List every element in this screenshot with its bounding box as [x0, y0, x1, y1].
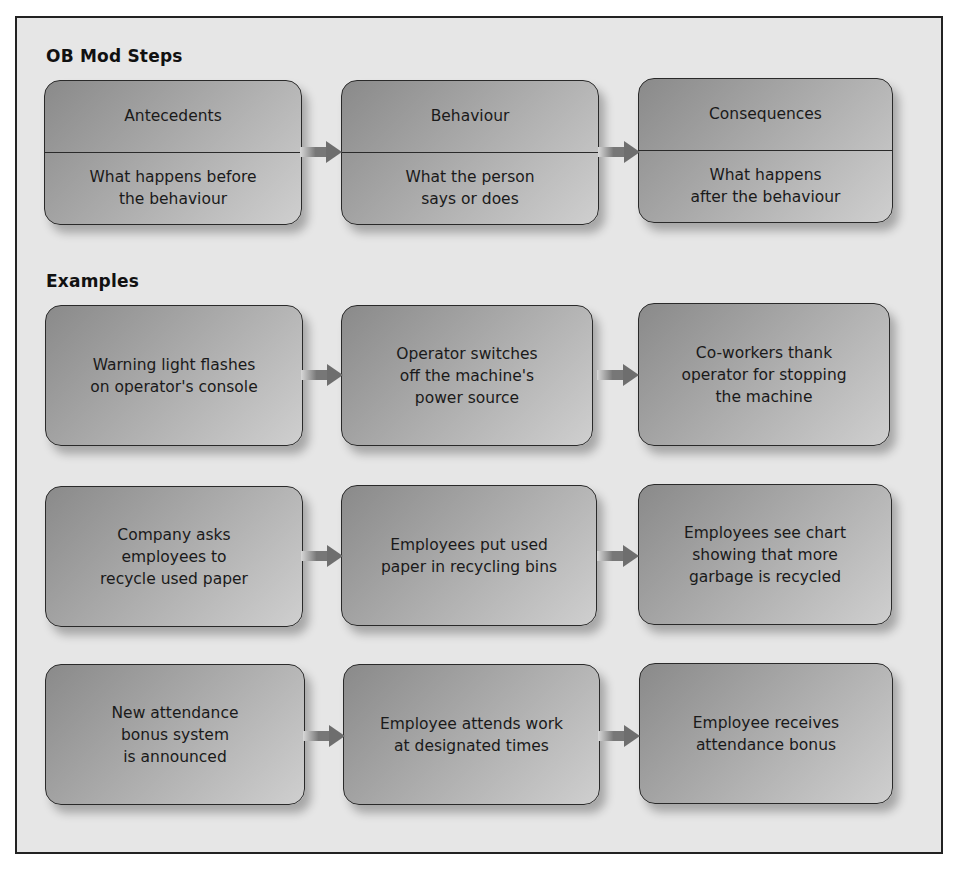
step-heading: Antecedents	[45, 81, 301, 153]
example-text: New attendance bonus system is announced	[46, 665, 304, 804]
arrow-right-icon	[598, 141, 640, 163]
step-heading: Behaviour	[342, 81, 598, 153]
arrow-right-icon	[597, 364, 639, 386]
arrow-right-icon	[300, 141, 342, 163]
step-behaviour: Behaviour What the person says or does	[341, 80, 599, 225]
example-text: Operator switches off the machine's powe…	[342, 306, 592, 445]
arrow-right-icon	[301, 364, 343, 386]
step-antecedents: Antecedents What happens before the beha…	[44, 80, 302, 225]
step-heading: Consequences	[639, 79, 892, 151]
step-description: What the person says or does	[342, 153, 598, 225]
example-antecedent: Warning light flashes on operator's cons…	[45, 305, 303, 446]
arrow-right-icon	[598, 725, 640, 747]
example-text: Employee receives attendance bonus	[640, 664, 892, 803]
steps-title: OB Mod Steps	[46, 46, 183, 66]
example-consequence: Co-workers thank operator for stopping t…	[638, 303, 890, 446]
example-antecedent: New attendance bonus system is announced	[45, 664, 305, 805]
example-behaviour: Employee attends work at designated time…	[343, 664, 600, 805]
arrow-right-icon	[303, 725, 345, 747]
arrow-right-icon	[597, 545, 639, 567]
example-behaviour: Operator switches off the machine's powe…	[341, 305, 593, 446]
example-text: Company asks employees to recycle used p…	[46, 487, 302, 626]
step-description: What happens after the behaviour	[639, 151, 892, 223]
arrow-right-icon	[301, 545, 343, 567]
step-description: What happens before the behaviour	[45, 153, 301, 225]
example-consequence: Employee receives attendance bonus	[639, 663, 893, 804]
example-text: Co-workers thank operator for stopping t…	[639, 304, 889, 445]
example-antecedent: Company asks employees to recycle used p…	[45, 486, 303, 627]
example-text: Warning light flashes on operator's cons…	[46, 306, 302, 445]
example-text: Employees put used paper in recycling bi…	[342, 486, 596, 625]
step-consequences: Consequences What happens after the beha…	[638, 78, 893, 223]
example-text: Employees see chart showing that more ga…	[639, 485, 891, 624]
example-behaviour: Employees put used paper in recycling bi…	[341, 485, 597, 626]
example-consequence: Employees see chart showing that more ga…	[638, 484, 892, 625]
examples-title: Examples	[46, 271, 139, 291]
example-text: Employee attends work at designated time…	[344, 665, 599, 804]
